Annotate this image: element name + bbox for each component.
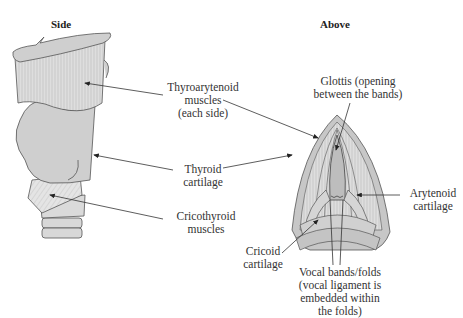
label-cricoid: Cricoid cartilage	[238, 245, 288, 271]
label-vocal-bands: Vocal bands/folds (vocal ligament is emb…	[290, 266, 390, 318]
label-glottis: Glottis (opening between the bands)	[308, 75, 408, 101]
above-view-title: Above	[320, 18, 350, 30]
side-view-title: Side	[51, 18, 71, 30]
label-thyroarytenoid: Thyroarytenoid muscles (each side)	[162, 81, 244, 120]
label-cricothyroid: Cricothyroid muscles	[166, 210, 246, 236]
above-view-larynx	[292, 115, 390, 250]
label-arytenoid: Arytenoid cartilage	[403, 187, 463, 213]
side-view-larynx	[13, 33, 111, 238]
label-thyroid-cartilage: Thyroid cartilage	[178, 163, 228, 189]
